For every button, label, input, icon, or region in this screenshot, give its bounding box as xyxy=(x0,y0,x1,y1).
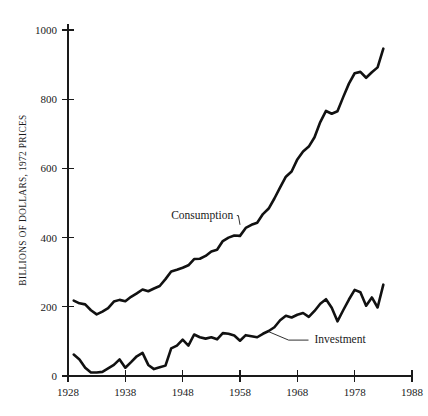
line-chart-plot: 02004006008001000 1928193819481958196819… xyxy=(0,0,428,416)
chart-container: 02004006008001000 1928193819481958196819… xyxy=(0,0,428,416)
y-tick-label: 800 xyxy=(41,93,58,105)
y-tick-label: 600 xyxy=(41,162,58,174)
y-axis-title: BILLIONS OF DOLLARS, 1972 PRICES xyxy=(18,114,28,285)
series-line-consumption xyxy=(74,49,384,315)
x-tick-label: 1968 xyxy=(286,386,309,398)
x-tick-label: 1958 xyxy=(229,386,252,398)
y-tick-label: 1000 xyxy=(35,24,58,36)
series-line-investment xyxy=(74,285,384,373)
y-tick-label: 0 xyxy=(52,370,58,382)
x-tick-label: 1978 xyxy=(344,386,367,398)
x-tick-label: 1938 xyxy=(114,386,137,398)
x-tick-label: 1988 xyxy=(401,386,424,398)
series-annotations: ConsumptionInvestment xyxy=(171,209,366,346)
leader-line-investment xyxy=(269,332,309,340)
series-label-investment: Investment xyxy=(315,333,367,345)
series-label-consumption: Consumption xyxy=(171,209,233,222)
x-tick-label: 1928 xyxy=(57,386,80,398)
x-tick-label: 1948 xyxy=(172,386,195,398)
leader-line-consumption xyxy=(237,216,240,225)
x-axis: 1928193819481958196819781988 xyxy=(57,370,424,398)
y-tick-label: 200 xyxy=(41,301,58,313)
y-tick-label: 400 xyxy=(41,232,58,244)
